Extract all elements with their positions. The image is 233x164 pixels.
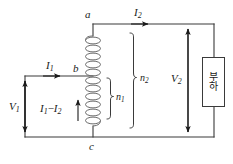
node-label-b: b [73,63,79,74]
voltage-v2-symbol: V [171,72,178,84]
node-label-c: c [89,141,94,152]
turns-label-n2: n2 [140,73,149,85]
coil-turn [86,93,101,100]
brace-n2 [130,33,137,128]
i1-minus-i2-second-subscript: 2 [58,107,62,116]
circuit-wires [25,24,214,137]
current-i2-subscript: 2 [138,11,142,20]
autotransformer-diagram: a b c I2 I1 I1−I2 V1 V2 n1 n2 부 하 [0,0,233,164]
current-label-i2: I2 [134,7,142,20]
turns-label-n1: n1 [116,92,125,104]
load-label-line2: 하 [209,82,218,93]
coil-turn [86,69,101,76]
voltage-v1-symbol: V [9,100,16,112]
transformer-coil [86,36,101,126]
coil-turn [86,109,101,116]
coil-turn [86,101,101,108]
brace-n1 [107,78,114,119]
turns-n1-subscript: 1 [121,96,125,104]
turn-braces [107,33,137,128]
voltage-label-v1: V1 [9,101,20,114]
voltage-v2-subscript: 2 [178,77,182,86]
coil-turn [86,85,101,92]
coil-turn [86,37,101,44]
circuit-schematic-svg [0,0,233,164]
coil-turn [86,77,101,84]
load-box: 부 하 [202,57,225,107]
turns-n2-subscript: 2 [145,77,149,85]
current-label-i1-minus-i2: I1−I2 [40,103,61,116]
voltage-label-v2: V2 [171,73,182,86]
coil-turn [86,45,101,52]
coil-turn [86,53,101,60]
node-label-a: a [85,9,91,20]
voltage-v1-subscript: 1 [16,105,20,114]
current-i1-subscript: 1 [50,64,54,73]
coil-turn [86,117,101,124]
coil-turn [86,61,101,68]
current-label-i1: I1 [46,60,54,73]
